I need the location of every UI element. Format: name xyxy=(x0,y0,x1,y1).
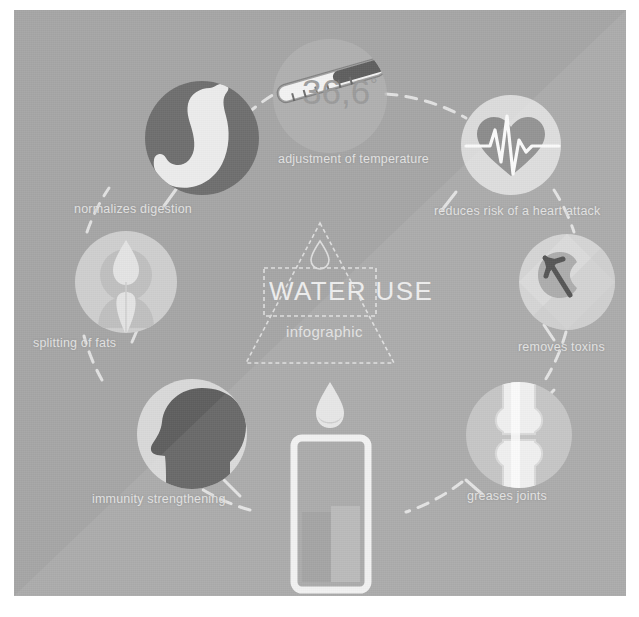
page-title: WATER USE xyxy=(269,276,433,307)
degree-symbol: ° xyxy=(370,75,377,95)
node-label-normalizes-digestion: normalizes digestion xyxy=(74,202,192,216)
page-subtitle: infographic xyxy=(286,323,363,340)
node-label-immunity-strengthening: immunity strengthening xyxy=(92,492,226,506)
thermometer-value: 36,6 xyxy=(302,72,370,111)
node-label-reduces-risk-of-a-heart-attack: reduces risk of a heart attack xyxy=(434,204,601,218)
node-label-splitting-of-fats: splitting of fats xyxy=(33,336,116,350)
thermometer-reading: 36,6° xyxy=(302,72,377,112)
node-label-adjustment-of-temperature: adjustment of temperature xyxy=(278,152,429,166)
node-icon-normalizes-digestion[interactable] xyxy=(145,81,259,195)
water-use-infographic: 36,6° WATER USE infographic adjustment o… xyxy=(14,10,626,596)
node-icon-splitting-of-fats[interactable] xyxy=(75,231,177,340)
node-label-removes-toxins: removes toxins xyxy=(518,340,605,354)
node-label-greases-joints: greases joints xyxy=(467,489,547,503)
